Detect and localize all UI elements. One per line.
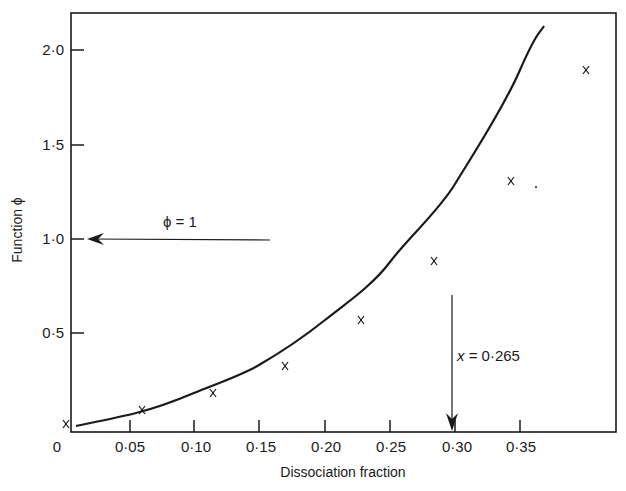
- stray-dot: [535, 186, 537, 188]
- x-annotation-value: = 0·265: [465, 347, 520, 364]
- x-tick-label: 0·20: [311, 438, 341, 455]
- x-axis-title: Dissociation fraction: [280, 464, 405, 480]
- marker-x: [282, 362, 288, 370]
- x-tick-label: 0·15: [246, 438, 276, 455]
- marker-x: [508, 177, 514, 185]
- marker-x: [358, 316, 364, 324]
- origin-label: 0: [53, 438, 61, 455]
- marker-x: [431, 257, 437, 265]
- phi-annotation-label: ϕ = 1: [163, 213, 197, 230]
- y-tick-label: 0·5: [42, 324, 64, 341]
- marker-x: [583, 66, 589, 74]
- x-annotation-label: x = 0·265: [456, 347, 520, 364]
- x-tick-label: 0·05: [115, 438, 145, 455]
- y-axis-ticks: [71, 50, 84, 333]
- x-tick-labels: 0 0·05 0·10 0·15 0·20 0·25 0·30 0·35: [53, 438, 536, 455]
- fitted-curve: [76, 26, 544, 426]
- y-tick-label: 1·0: [42, 230, 64, 247]
- x-tick-label: 0·10: [181, 438, 211, 455]
- x-tick-label: 0·35: [506, 438, 536, 455]
- phi-arrow-shaft: [90, 239, 270, 240]
- x-annotation: x = 0·265: [446, 295, 520, 431]
- y-tick-labels: 2·0 1·5 1·0 0·5: [42, 41, 64, 341]
- plot-frame: [71, 13, 616, 432]
- marker-x: [210, 389, 216, 397]
- y-tick-label: 2·0: [42, 41, 64, 58]
- phi-equals-one-annotation: ϕ = 1: [87, 213, 270, 245]
- marker-x: [63, 420, 69, 428]
- chart: 2·0 1·5 1·0 0·5 0 0·05 0·10 0·15 0·20 0·…: [0, 0, 626, 491]
- x-tick-label: 0·25: [376, 438, 406, 455]
- x-axis-ticks: [130, 420, 520, 432]
- data-markers: [63, 66, 589, 428]
- y-tick-label: 1·5: [42, 136, 64, 153]
- x-tick-label: 0·30: [442, 438, 472, 455]
- y-axis-title: Function ϕ: [9, 197, 25, 263]
